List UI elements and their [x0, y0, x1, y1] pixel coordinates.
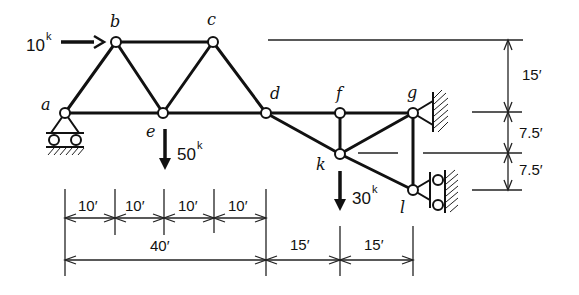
load-10k-horizontal: 10 k [26, 30, 104, 55]
label-l: l [400, 198, 405, 217]
label-k: k [316, 155, 326, 174]
load-30k-value: 30 [352, 189, 371, 208]
label-g: g [407, 83, 417, 102]
node-b [111, 37, 121, 47]
label-e: e [146, 122, 155, 141]
truss-nodes [60, 37, 418, 195]
node-f [335, 108, 345, 118]
load-30k-vertical: 30 k [334, 171, 378, 211]
load-50k-unit: k [197, 139, 203, 151]
dim-right-15-2: 15′ [364, 236, 384, 253]
dim-panel-4: 10′ [228, 197, 248, 214]
support-l-roller-wall [413, 170, 458, 213]
support-a-roller [46, 113, 84, 155]
member-be [116, 42, 163, 113]
node-k [335, 149, 345, 159]
label-c: c [207, 10, 216, 29]
dim-right-15-1: 15′ [290, 236, 310, 253]
load-30k-unit: k [372, 183, 378, 195]
load-50k-vertical: 50 k [159, 129, 203, 170]
load-10k-value: 10 [26, 36, 45, 55]
truss-members [65, 42, 413, 190]
truss-diagram: a b c d e f g k l 10 k 50 k 30 k [0, 0, 579, 295]
load-10k-unit: k [46, 30, 52, 42]
vertical-dimensions: 15′ 7.5′ 7.5′ [268, 40, 543, 190]
dim-vertical-15: 15′ [522, 66, 542, 83]
label-f: f [335, 84, 345, 103]
member-dk [266, 113, 340, 154]
node-c [208, 37, 218, 47]
node-d [261, 108, 271, 118]
dim-panel-2: 10′ [125, 197, 145, 214]
node-l [408, 185, 418, 195]
dim-panel-3: 10′ [178, 197, 198, 214]
member-ab [65, 42, 116, 113]
label-d: d [270, 84, 280, 103]
label-b: b [110, 12, 120, 31]
node-g [408, 108, 418, 118]
member-cd [213, 42, 266, 113]
dim-vertical-7-5-lower: 7.5′ [519, 161, 543, 178]
member-ce [163, 42, 213, 113]
dim-panel-1: 10′ [78, 197, 98, 214]
dim-vertical-7-5-upper: 7.5′ [519, 124, 543, 141]
dim-total-40: 40′ [150, 237, 170, 254]
load-50k-value: 50 [177, 145, 196, 164]
label-a: a [41, 95, 51, 114]
node-a [60, 108, 70, 118]
node-e [158, 108, 168, 118]
member-kg [340, 113, 413, 154]
